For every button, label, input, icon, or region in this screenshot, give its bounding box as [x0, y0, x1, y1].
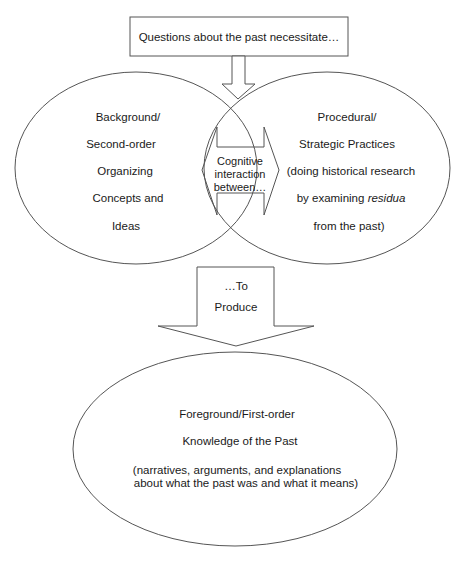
right-line-1: Procedural/ — [318, 111, 378, 123]
bottom-line-1: Foreground/First-order — [179, 408, 295, 420]
left-line-1: Background/ — [96, 111, 161, 123]
top-question-label: Questions about the past necessitate… — [139, 31, 340, 43]
left-line-4: Concepts and — [93, 192, 164, 204]
left-ellipse-text: Background/ Second-order Organizing Conc… — [86, 111, 163, 232]
produce-line-1: …To — [224, 280, 248, 292]
left-line-3: Organizing — [97, 165, 153, 177]
right-line-2: Strategic Practices — [299, 138, 395, 150]
left-line-5: Ideas — [112, 220, 140, 232]
bottom-line-2: Knowledge of the Past — [182, 435, 298, 447]
center-overlap-text: Cognitive interaction between… — [214, 155, 267, 193]
bottom-ellipse-text: Foreground/First-order Knowledge of the … — [133, 408, 359, 489]
left-line-2: Second-order — [86, 138, 156, 150]
right-line-5: from the past) — [314, 220, 385, 232]
right-ellipse-text: Procedural/ Strategic Practices (doing h… — [287, 111, 415, 232]
center-line-2: interaction — [215, 168, 266, 180]
produce-line-2: Produce — [215, 301, 258, 313]
bottom-ellipse-foreground-knowledge — [73, 352, 397, 546]
right-line-4: by examining residua — [297, 192, 406, 204]
right-line-4-plain: by examining — [297, 192, 368, 204]
bottom-line-3: (narratives, arguments, and explanations — [133, 464, 342, 476]
center-line-1: Cognitive — [217, 155, 263, 167]
right-line-4-italic: residua — [368, 192, 406, 204]
diagram-canvas: Questions about the past necessitate… Ba… — [0, 0, 462, 563]
center-line-3: between… — [214, 181, 267, 193]
bottom-line-4: about what the past was and what it mean… — [134, 477, 359, 489]
right-line-3: (doing historical research — [287, 165, 415, 177]
